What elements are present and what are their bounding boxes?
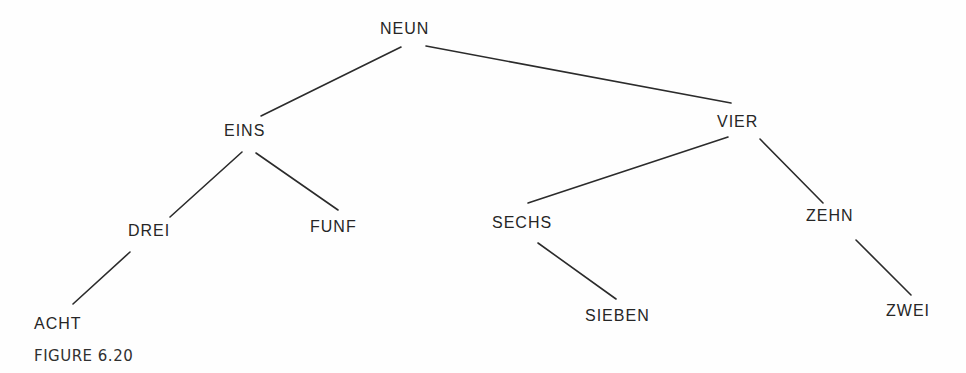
node-drei: DREI <box>128 222 170 240</box>
edge-eins-drei <box>170 152 242 217</box>
tree-edges <box>0 0 966 373</box>
edge-neun-vier <box>426 46 731 103</box>
node-funf: FUNF <box>310 218 357 236</box>
node-zehn: ZEHN <box>806 207 854 225</box>
edge-eins-funf <box>256 153 338 210</box>
edge-sechs-sieben <box>538 243 616 299</box>
node-acht: ACHT <box>34 315 82 333</box>
node-eins: EINS <box>224 122 265 140</box>
edge-neun-eins <box>261 47 401 116</box>
edge-vier-sechs <box>528 137 728 203</box>
node-neun: NEUN <box>380 20 429 38</box>
node-sieben: SIEBEN <box>585 307 650 325</box>
node-vier: VIER <box>717 113 758 131</box>
node-zwei: ZWEI <box>886 302 930 320</box>
tree-diagram: NEUN EINS VIER DREI FUNF SECHS ZEHN ACHT… <box>0 0 966 373</box>
edge-vier-zehn <box>760 139 823 203</box>
edge-zehn-zwei <box>856 240 911 295</box>
node-sechs: SECHS <box>492 214 552 232</box>
figure-caption: FIGURE 6.20 <box>34 347 133 365</box>
edge-drei-acht <box>73 252 130 304</box>
